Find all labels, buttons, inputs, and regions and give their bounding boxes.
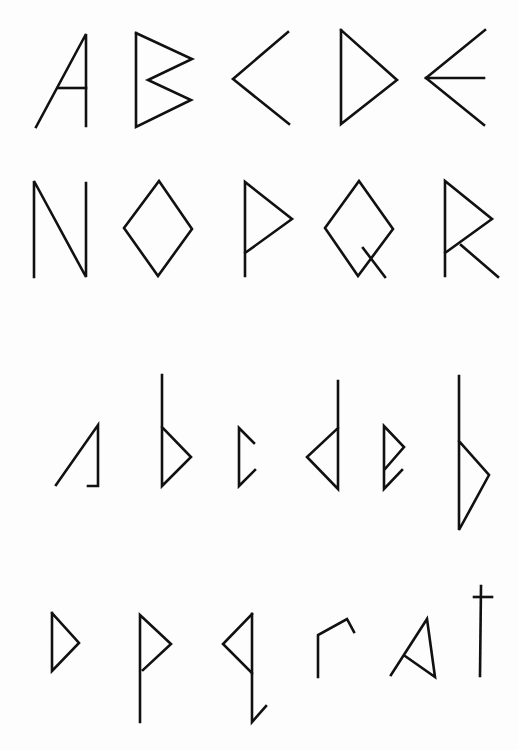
glyph-D bbox=[341, 30, 397, 124]
glyph-E bbox=[426, 30, 485, 125]
glyph-R bbox=[445, 181, 498, 277]
glyph-d-lower bbox=[307, 381, 338, 489]
glyph-B bbox=[136, 33, 192, 127]
glyph-c-lower bbox=[239, 428, 255, 486]
glyph-b-lower bbox=[162, 375, 191, 486]
glyph-a-alt bbox=[391, 619, 435, 677]
glyph-t-lower bbox=[474, 586, 492, 676]
glyph-q-lower bbox=[223, 614, 266, 722]
letterforms-drawing bbox=[0, 0, 519, 750]
glyph-O bbox=[124, 181, 192, 276]
glyph-A bbox=[36, 34, 86, 127]
glyph-p-small bbox=[52, 613, 79, 671]
glyph-p-lower bbox=[140, 615, 171, 722]
alphabet-specimen-sheet: uppercase-row-1 uppercase-row-2 lowercas… bbox=[0, 0, 519, 750]
glyph-Q bbox=[325, 181, 393, 277]
glyph-e-lower bbox=[384, 426, 404, 489]
glyph-C bbox=[233, 32, 289, 124]
glyph-a-lower bbox=[56, 425, 98, 486]
glyph-r-lower bbox=[318, 619, 354, 677]
glyph-P bbox=[245, 182, 292, 276]
glyph-N bbox=[34, 181, 86, 277]
glyph-f-lower bbox=[459, 376, 489, 530]
